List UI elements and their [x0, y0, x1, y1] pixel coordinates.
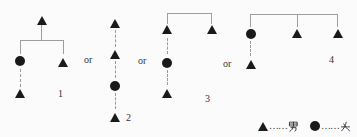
connector-line	[250, 14, 251, 27]
bracket-line	[250, 14, 338, 15]
kinship-diagram-figure: 1 or 2 or 3 or 4	[0, 0, 357, 137]
legend-leader-dots: ……	[321, 121, 339, 131]
male-symbol	[246, 60, 256, 69]
male-symbol	[292, 29, 302, 38]
kanji-female-glyph	[340, 121, 351, 132]
connector-line	[297, 14, 298, 27]
male-symbol-legend-icon	[258, 122, 268, 131]
female-symbol	[246, 29, 256, 39]
legend-leader-dots: ……	[269, 121, 287, 131]
diagram-number: 4	[329, 55, 334, 65]
legend: …… 男 …… 女	[258, 119, 351, 133]
connector-line	[337, 14, 338, 27]
dashed-descent-line	[250, 41, 251, 56]
male-symbol	[333, 29, 343, 38]
diagram-4: 4	[0, 0, 357, 137]
kanji-male-glyph	[288, 121, 299, 132]
female-symbol-legend-icon	[310, 121, 320, 131]
